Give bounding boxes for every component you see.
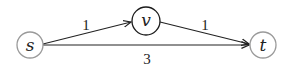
node-s: s (17, 32, 43, 58)
node-v-label: v (141, 10, 151, 30)
node-v: v (132, 7, 160, 35)
edge-label-s-t: 3 (143, 51, 151, 67)
node-s-label: s (26, 35, 35, 55)
node-t-label: t (260, 35, 267, 55)
graph-diagram: 1 1 3 s v t (0, 0, 285, 68)
edge-label-v-t: 1 (201, 17, 209, 33)
node-t: t (250, 32, 276, 58)
edge-label-s-v: 1 (82, 17, 90, 33)
